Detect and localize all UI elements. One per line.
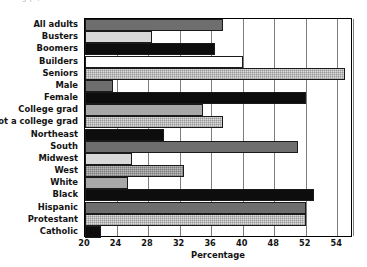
xtick-label-40: 40 (236, 238, 247, 248)
bar-series (85, 19, 351, 236)
cropped-title-strip: a g p , (0, 0, 367, 11)
category-label-black: Black (53, 188, 78, 200)
xtick-label-20: 20 (78, 238, 89, 248)
cropped-title-text: a g p , (14, 0, 40, 2)
bar-hispanic (85, 202, 306, 214)
category-label-boomers: Boomers (37, 42, 78, 54)
bar-seniors (85, 68, 345, 80)
x-axis-title: Percentage (84, 250, 352, 260)
category-label-busters: Busters (42, 30, 78, 42)
category-label-midwest: Midwest (38, 152, 78, 164)
bar-male (85, 80, 113, 92)
bar-protestant (85, 214, 306, 226)
category-label-female: Female (44, 91, 78, 103)
category-label-male: Male (55, 79, 78, 91)
xtick-label-36: 36 (204, 238, 215, 248)
category-label-hispanic: Hispanic (38, 201, 78, 213)
category-label-not-a-college-grad: Not a college grad (0, 115, 78, 127)
category-label-northeast: Northeast (31, 128, 78, 140)
category-label-builders: Builders (39, 55, 78, 67)
bar-builders (85, 56, 243, 68)
xtick-label-28: 28 (141, 238, 152, 248)
bar-not-a-college-grad (85, 116, 223, 128)
category-label-west: West (54, 164, 78, 176)
xtick-label-32: 32 (173, 238, 184, 248)
category-label-protestant: Protestant (28, 213, 78, 225)
category-label-south: South (50, 140, 78, 152)
bar-all-adults (85, 19, 223, 31)
bar-black (85, 189, 314, 201)
category-label-all-adults: All adults (33, 18, 78, 30)
bar-boomers (85, 43, 215, 55)
bar-college-grad (85, 104, 203, 116)
category-label-catholic: Catholic (40, 225, 78, 237)
value-axis-ticks: 202428323640485254 (0, 238, 367, 250)
bar-white (85, 177, 128, 189)
xtick-label-48: 48 (267, 238, 278, 248)
bar-south (85, 141, 298, 153)
category-axis-labels: All adultsBustersBoomersBuildersSeniorsM… (0, 18, 80, 237)
bar-female (85, 92, 306, 104)
bar-west (85, 165, 184, 177)
xtick-label-24: 24 (110, 238, 121, 248)
gridline-54 (353, 19, 354, 236)
plot-area (84, 18, 352, 237)
xtick-label-54: 54 (331, 238, 342, 248)
category-label-college-grad: College grad (18, 103, 78, 115)
category-label-seniors: Seniors (43, 67, 78, 79)
category-label-white: White (50, 176, 78, 188)
bar-midwest (85, 153, 132, 165)
bar-catholic (85, 226, 101, 238)
xtick-label-52: 52 (299, 238, 310, 248)
bar-busters (85, 31, 152, 43)
bar-northeast (85, 129, 164, 141)
horizontal-bar-chart: a g p , All adultsBustersBoomersBuilders… (0, 0, 367, 267)
